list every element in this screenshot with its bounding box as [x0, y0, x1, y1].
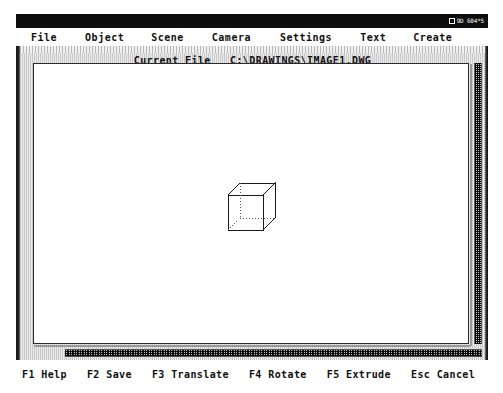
display-mode-indicator: 9D 604*5 — [449, 15, 484, 26]
drawing-canvas[interactable] — [33, 63, 469, 344]
frame-bevel-right — [485, 46, 488, 360]
drawing-window-frame: Current File C:\DRAWINGS\IMAGE1.DWG — [16, 46, 488, 360]
vertical-scrollbar[interactable] — [474, 63, 482, 344]
drawing-canvas-surface[interactable] — [34, 64, 468, 343]
function-key-f2-save[interactable]: F2 Save — [87, 369, 132, 380]
cube-top-face — [228, 183, 275, 195]
menu-item-scene[interactable]: Scene — [150, 32, 185, 43]
title-bar: 9D 604*5 — [16, 14, 488, 28]
function-key-f4-rotate[interactable]: F4 Rotate — [249, 369, 307, 380]
menu-item-object[interactable]: Object — [84, 32, 125, 43]
menu-bar: File Object Scene Camera Settings Text C… — [16, 28, 488, 46]
function-key-bar: F1 Help F2 Save F3 Translate F4 Rotate F… — [16, 366, 488, 382]
function-key-f5-extrude[interactable]: F5 Extrude — [327, 369, 391, 380]
application-window: 9D 604*5 File Object Scene Camera Settin… — [0, 0, 503, 393]
menu-item-camera[interactable]: Camera — [211, 32, 252, 43]
menu-item-text[interactable]: Text — [359, 32, 387, 43]
menu-item-file[interactable]: File — [30, 32, 58, 43]
function-key-f3-translate[interactable]: F3 Translate — [152, 369, 229, 380]
menu-item-settings[interactable]: Settings — [279, 32, 333, 43]
frame-bevel-left — [16, 46, 20, 360]
screen-mode-icon — [449, 18, 455, 24]
frame-top-texture — [20, 46, 485, 53]
horizontal-scrollbar[interactable] — [65, 349, 482, 357]
function-key-f1-help[interactable]: F1 Help — [22, 369, 67, 380]
canvas-edge-shadow-bottom — [34, 345, 471, 347]
function-key-esc-cancel[interactable]: Esc Cancel — [411, 369, 475, 380]
menu-item-create[interactable]: Create — [412, 32, 453, 43]
cube-right-face — [263, 183, 275, 230]
display-mode-text: 9D 604*5 — [457, 17, 484, 24]
canvas-edge-shadow-right — [470, 64, 472, 346]
wireframe-cube[interactable] — [34, 64, 468, 343]
cube-hidden-diagonal-edge — [228, 218, 240, 230]
cube-front-face — [228, 195, 263, 230]
